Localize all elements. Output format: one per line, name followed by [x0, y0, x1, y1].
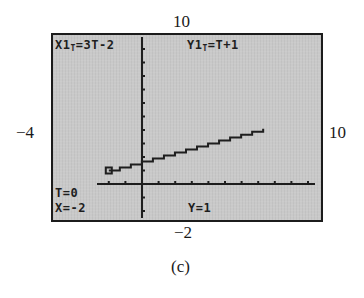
t-readout: T=0: [55, 187, 78, 199]
y-readout: Y=1: [188, 202, 211, 214]
x-equation: X1T=3T-2: [55, 39, 114, 53]
graph-plot: [53, 35, 321, 220]
x-equation-expr: =3T-2: [76, 38, 115, 52]
y-equation: Y1T=T+1: [187, 39, 239, 53]
ymin-label: −2: [174, 224, 192, 241]
calculator-figure: 10 −4 10 −2 (c) X1T=3T-2 Y1T=T+1 T=0 X=-…: [0, 0, 364, 298]
figure-caption: (c): [171, 258, 190, 275]
calculator-screen: X1T=3T-2 Y1T=T+1 T=0 X=-2 Y=1: [51, 33, 323, 222]
ymax-label: 10: [173, 13, 190, 30]
y-equation-expr: =T+1: [208, 38, 239, 52]
y-equation-name: Y1: [187, 38, 202, 52]
xmin-label: −4: [16, 124, 34, 141]
parametric-curve: [109, 129, 263, 171]
x-equation-name: X1: [55, 38, 70, 52]
x-readout: X=-2: [55, 202, 86, 214]
xmax-label: 10: [329, 124, 346, 141]
